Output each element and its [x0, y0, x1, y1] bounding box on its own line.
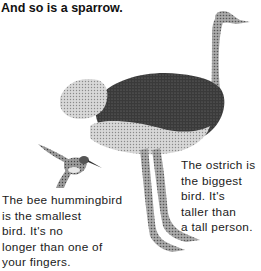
caption-line: the biggest	[181, 174, 261, 190]
caption-line: The ostrich is	[181, 158, 261, 174]
ostrich-caption: The ostrich is the biggest bird. It's ta…	[181, 158, 261, 236]
caption-line: bird. It's	[181, 189, 261, 205]
caption-line: your fingers.	[2, 255, 132, 271]
caption-line: bird. It's no	[2, 224, 132, 240]
caption-line: is the smallest	[2, 209, 132, 225]
caption-line: a tall person.	[181, 220, 261, 236]
hummingbird-illustration	[34, 142, 104, 192]
caption-line: longer than one of	[2, 240, 132, 256]
hummingbird-caption: The bee hummingbird is the smallest bird…	[2, 193, 132, 271]
caption-line: The bee hummingbird	[2, 193, 132, 209]
caption-line: taller than	[181, 205, 261, 221]
